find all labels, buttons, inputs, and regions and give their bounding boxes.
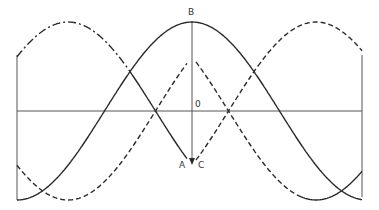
dashed-wave-rising-from-C <box>196 66 258 160</box>
dash-dot-wave-upper-left <box>17 22 130 72</box>
wave-segment-to-right-corner <box>300 171 362 200</box>
arrowhead-icon <box>189 158 195 165</box>
label-B: B <box>188 7 194 17</box>
dashed-wave-lower-right <box>196 62 300 196</box>
label-A: A <box>179 160 186 170</box>
label-origin-0: 0 <box>195 99 201 109</box>
dashed-wave-lower-left <box>17 63 187 200</box>
label-C: C <box>198 160 204 170</box>
waveform-diagram: B 0 A C <box>0 0 379 210</box>
dashed-wave-upper-right <box>258 22 362 66</box>
diagram-frame <box>17 22 362 200</box>
wave-segment-to-A <box>130 72 187 159</box>
